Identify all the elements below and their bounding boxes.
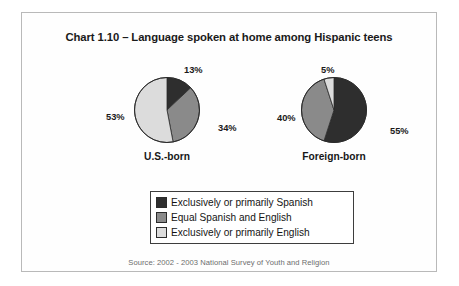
pie-value-label-fb-equal: 40%	[277, 113, 296, 123]
pie-svg-us-born	[133, 76, 201, 144]
pie-value-label-us-english: 53%	[106, 112, 125, 122]
pie-value-label-fb-spanish: 55%	[390, 126, 409, 136]
legend-label-english: Exclusively or primarily English	[171, 227, 310, 239]
figure-frame: Chart 1.10 – Language spoken at home amo…	[21, 12, 437, 272]
legend-swatch-equal	[156, 212, 167, 223]
page-title: Chart 1.10 – Language spoken at home amo…	[22, 31, 436, 43]
pie-chart-us-born: U.S.-born 13% 34% 53%	[92, 76, 242, 162]
pie-value-label-us-equal: 34%	[218, 123, 237, 133]
pie-chart-foreign-born: Foreign-born 55% 40% 5%	[259, 76, 409, 162]
legend-label-spanish: Exclusively or primarily Spanish	[171, 197, 313, 209]
pie-caption-foreign-born: Foreign-born	[259, 151, 409, 162]
legend-swatch-spanish	[156, 197, 167, 208]
pie-value-label-us-spanish: 13%	[184, 65, 203, 75]
legend-item-spanish: Exclusively or primarily Spanish	[156, 195, 349, 210]
pie-slice	[134, 77, 173, 142]
legend-item-equal: Equal Spanish and English	[156, 210, 349, 225]
chart-legend: Exclusively or primarily Spanish Equal S…	[150, 191, 354, 244]
legend-swatch-english	[156, 227, 167, 238]
pie-svg-foreign-born	[300, 76, 368, 144]
legend-item-english: Exclusively or primarily English	[156, 225, 349, 240]
source-note: Source: 2002 - 2003 National Survey of Y…	[22, 258, 436, 267]
pie-value-label-fb-english: 5%	[321, 65, 334, 75]
legend-label-equal: Equal Spanish and English	[171, 212, 292, 224]
pie-caption-us-born: U.S.-born	[92, 151, 242, 162]
